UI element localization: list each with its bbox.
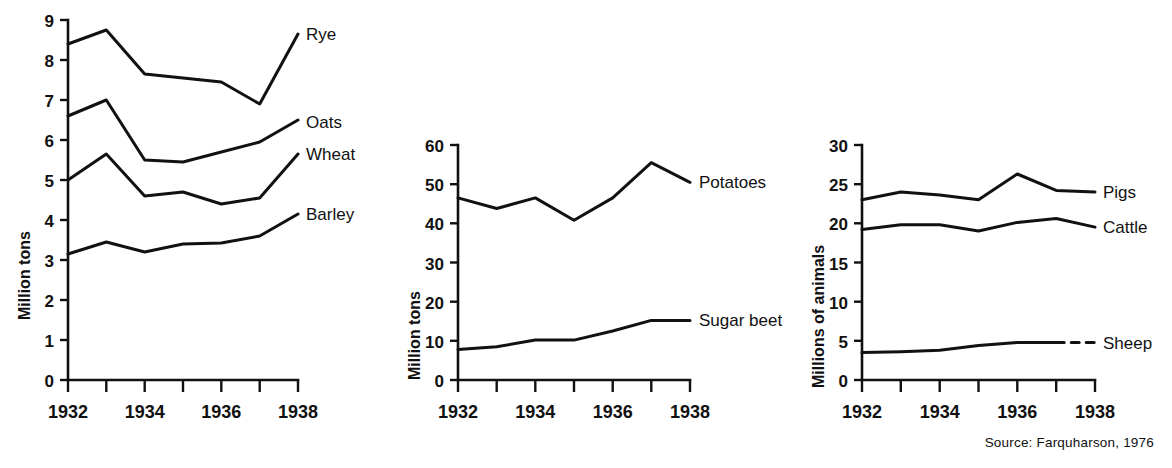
roots-ytick-10: 10 <box>425 333 444 352</box>
livestock-series-labels: Pigs Cattle Sheep <box>1103 183 1152 353</box>
figure-container: 9 8 7 6 5 4 3 2 1 0 1932 1934 1936 1938 … <box>0 0 1172 468</box>
livestock-axes <box>854 145 1095 392</box>
livestock-y-axis-title: Millions of animals <box>810 245 827 388</box>
livestock-label-sheep: Sheep <box>1103 334 1152 353</box>
roots-x-tick-labels: 1932 1934 1936 1938 <box>438 402 710 422</box>
livestock-line-sheep <box>862 342 1056 352</box>
roots-ytick-60: 60 <box>425 137 444 156</box>
livestock-ytick-20: 20 <box>829 215 848 234</box>
roots-label-sugar-beet: Sugar beet <box>699 311 782 330</box>
livestock-x-ticks <box>862 380 1095 392</box>
crops-ytick-8: 8 <box>45 52 54 71</box>
crops-ytick-2: 2 <box>45 292 54 311</box>
livestock-line-pigs <box>862 174 1095 200</box>
roots-xtick-1932: 1932 <box>438 402 478 422</box>
crops-ytick-9: 9 <box>45 12 54 31</box>
roots-xtick-1938: 1938 <box>670 402 710 422</box>
roots-label-potatoes: Potatoes <box>699 173 766 192</box>
livestock-ytick-10: 10 <box>829 294 848 313</box>
roots-ytick-50: 50 <box>425 176 444 195</box>
chart-livestock: 30 25 20 15 10 5 0 1932 1934 1936 1938 M… <box>790 0 1172 440</box>
crops-ytick-0: 0 <box>45 372 54 391</box>
crops-label-wheat: Wheat <box>306 145 355 164</box>
livestock-line-cattle <box>862 219 1095 232</box>
roots-axis-lines <box>458 145 690 380</box>
livestock-label-pigs: Pigs <box>1103 183 1136 202</box>
crops-y-axis-title: Million tons <box>16 231 33 320</box>
roots-ytick-30: 30 <box>425 255 444 274</box>
chart-roots: 60 50 40 30 20 10 0 1932 1934 1936 1938 … <box>390 0 790 440</box>
crops-ytick-7: 7 <box>45 92 54 111</box>
source-note: Source: Farquharson, 1976 <box>985 435 1154 450</box>
chart-crops: 9 8 7 6 5 4 3 2 1 0 1932 1934 1936 1938 … <box>0 0 400 440</box>
roots-xtick-1936: 1936 <box>593 402 633 422</box>
crops-y-tick-labels: 9 8 7 6 5 4 3 2 1 0 <box>45 12 55 391</box>
roots-xtick-1934: 1934 <box>515 402 555 422</box>
livestock-ytick-5: 5 <box>839 333 848 352</box>
crops-series-labels: Rye Oats Wheat Barley <box>306 25 355 224</box>
crops-x-ticks <box>68 380 298 392</box>
livestock-ytick-25: 25 <box>829 176 848 195</box>
livestock-xtick-1936: 1936 <box>997 402 1037 422</box>
crops-series-lines <box>68 30 298 254</box>
livestock-y-tick-labels: 30 25 20 15 10 5 0 <box>829 137 848 391</box>
roots-series-labels: Potatoes Sugar beet <box>699 173 782 330</box>
roots-ytick-20: 20 <box>425 294 444 313</box>
livestock-ytick-30: 30 <box>829 137 848 156</box>
crops-ytick-1: 1 <box>45 332 54 351</box>
roots-line-potatoes <box>458 163 690 221</box>
crops-axes <box>60 20 298 392</box>
roots-axes <box>450 145 690 392</box>
crops-label-rye: Rye <box>306 25 336 44</box>
crops-xtick-1938: 1938 <box>278 402 318 422</box>
roots-y-axis-title: Million tons <box>406 291 423 380</box>
crops-ytick-3: 3 <box>45 252 54 271</box>
livestock-label-cattle: Cattle <box>1103 218 1147 237</box>
livestock-x-tick-labels: 1932 1934 1936 1938 <box>842 402 1115 422</box>
crops-ytick-4: 4 <box>45 212 55 231</box>
livestock-xtick-1934: 1934 <box>920 402 960 422</box>
roots-y-tick-labels: 60 50 40 30 20 10 0 <box>425 137 444 391</box>
roots-line-sugar-beet <box>458 320 690 349</box>
crops-xtick-1934: 1934 <box>125 402 165 422</box>
roots-ytick-0: 0 <box>435 372 444 391</box>
livestock-xtick-1932: 1932 <box>842 402 882 422</box>
roots-ytick-40: 40 <box>425 215 444 234</box>
crops-x-tick-labels: 1932 1934 1936 1938 <box>48 402 318 422</box>
crops-axis-lines <box>68 20 298 380</box>
crops-xtick-1936: 1936 <box>201 402 241 422</box>
livestock-ytick-0: 0 <box>839 372 848 391</box>
livestock-xtick-1938: 1938 <box>1075 402 1115 422</box>
crops-line-rye <box>68 30 298 104</box>
livestock-ytick-15: 15 <box>829 255 848 274</box>
crops-label-oats: Oats <box>306 113 342 132</box>
livestock-series-lines <box>862 174 1095 353</box>
roots-series-lines <box>458 163 690 350</box>
crops-line-oats <box>68 100 298 162</box>
roots-x-ticks <box>458 380 690 392</box>
crops-line-barley <box>68 214 298 254</box>
crops-ytick-5: 5 <box>45 172 54 191</box>
crops-xtick-1932: 1932 <box>48 402 88 422</box>
crops-label-barley: Barley <box>306 205 355 224</box>
crops-ytick-6: 6 <box>45 132 54 151</box>
